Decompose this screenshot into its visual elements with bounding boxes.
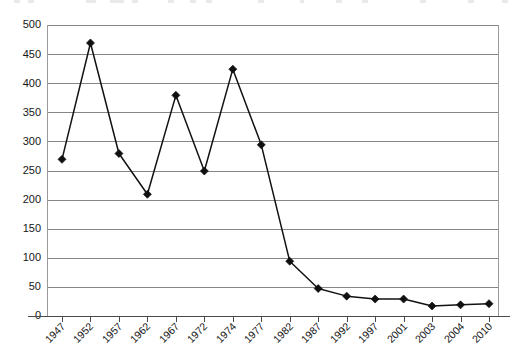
x-tick-label: 1992	[327, 320, 352, 345]
y-tick-label: 300	[23, 135, 41, 147]
x-tick-label: 2001	[384, 320, 409, 345]
x-tick-label: 1957	[99, 320, 124, 345]
y-tick-label: 400	[23, 77, 41, 89]
x-tick-label: 2003	[412, 320, 437, 345]
x-axis-labels: 1947 1952 1957 1962 1967 1972 1974 1977 …	[42, 320, 494, 345]
y-tick-label: 250	[23, 164, 41, 176]
x-tick-label: 1977	[241, 320, 266, 345]
y-tick-label: 0	[35, 309, 41, 321]
y-tick-label: 350	[23, 106, 41, 118]
y-tick-label: 100	[23, 251, 41, 263]
chart-canvas: 500 450 400 350 300 250 200 150 100 50 0	[0, 0, 525, 360]
x-tick-label: 1972	[184, 320, 209, 345]
y-tick-label: 500	[23, 18, 41, 30]
x-axis-ticks	[62, 317, 489, 322]
x-tick-label: 1967	[156, 320, 181, 345]
x-tick-label: 1997	[355, 320, 380, 345]
x-tick-label: 1947	[42, 320, 67, 345]
y-tick-label: 150	[23, 222, 41, 234]
x-tick-label: 1962	[127, 320, 152, 345]
y-tick-label: 450	[23, 48, 41, 60]
y-axis-labels: 500 450 400 350 300 250 200 150 100 50 0	[23, 18, 41, 321]
line-chart: 500 450 400 350 300 250 200 150 100 50 0	[0, 0, 525, 360]
x-tick-label: 2004	[441, 320, 466, 345]
y-tick-label: 200	[23, 193, 41, 205]
x-tick-label: 1952	[70, 320, 95, 345]
y-tick-label: 50	[29, 280, 41, 292]
x-tick-label: 1982	[270, 320, 295, 345]
x-tick-label: 2010	[469, 320, 494, 345]
x-tick-label: 1987	[298, 320, 323, 345]
x-tick-label: 1974	[213, 320, 238, 345]
